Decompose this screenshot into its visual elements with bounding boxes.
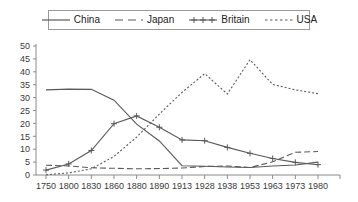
x-tick-label: 1963 <box>263 181 283 191</box>
x-tick-label: 1830 <box>81 181 101 191</box>
chart-container: China Japan <box>0 0 358 202</box>
series-line-britain <box>46 116 318 170</box>
x-tick-label: 1953 <box>240 181 260 191</box>
x-tick-label: 1860 <box>104 181 124 191</box>
y-tick-label: 50 <box>20 41 30 51</box>
y-tick-label: 15 <box>20 132 30 142</box>
y-tick-label: 20 <box>20 119 30 129</box>
series-marker-britain <box>247 150 253 156</box>
series-marker-britain <box>224 144 230 150</box>
y-tick-label: 0 <box>25 170 30 180</box>
series-marker-britain <box>179 137 185 143</box>
x-tick-label: 1928 <box>195 181 215 191</box>
x-tick-label: 1938 <box>217 181 237 191</box>
x-axis: 1750180018301860188018901913192819381953… <box>36 175 340 191</box>
series-marker-britain <box>156 124 162 130</box>
series-line-usa <box>46 60 318 175</box>
x-tick-label: 1980 <box>308 181 328 191</box>
y-tick-label: 45 <box>20 54 30 64</box>
y-tick-label: 35 <box>20 80 30 90</box>
y-tick-label: 40 <box>20 67 30 77</box>
x-tick-label: 1800 <box>59 181 79 191</box>
series-layer <box>43 60 321 175</box>
x-tick-label: 1973 <box>285 181 305 191</box>
series-line-china <box>46 89 318 167</box>
y-tick-label: 25 <box>20 106 30 116</box>
x-tick-label: 1913 <box>172 181 192 191</box>
x-tick-label: 1750 <box>36 181 56 191</box>
series-marker-britain <box>134 113 140 119</box>
series-marker-britain <box>202 138 208 144</box>
series-marker-britain <box>43 167 49 173</box>
x-tick-label: 1880 <box>127 181 147 191</box>
plot-area: 05101520253035404550 1750180018301860188… <box>0 0 358 202</box>
y-tick-label: 5 <box>25 157 30 167</box>
x-tick-label: 1890 <box>149 181 169 191</box>
y-axis: 05101520253035404550 <box>20 41 36 180</box>
y-tick-label: 30 <box>20 93 30 103</box>
y-tick-label: 10 <box>20 144 30 154</box>
